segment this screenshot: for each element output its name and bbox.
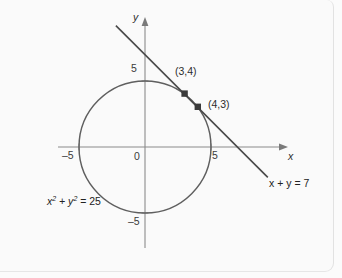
y-tick-label-neg5: –5 [128,216,140,227]
origin-label: 0 [134,151,140,162]
y-axis-arrowhead [142,17,149,26]
point-label-3-4: (3,4) [175,66,197,77]
circle-eq-mid: + y [56,195,73,207]
line-equation-label: x + y = 7 [269,178,309,189]
intersection-marker-4-3 [195,104,201,110]
circle-equation-label: x2 + y2 = 25 [47,196,101,207]
circle-eq-end: = 25 [77,195,101,207]
x-axis-label: x [288,151,293,162]
point-label-4-3: (4,3) [208,99,230,110]
y-axis-label: y [133,12,138,23]
intersection-marker-3-4 [181,90,187,96]
coordinate-plane [0,0,342,278]
x-axis [58,144,288,151]
x-tick-label-neg5: –5 [62,150,74,161]
x-tick-label-pos5: 5 [212,150,218,161]
x-axis-arrowhead [279,144,288,151]
y-tick-label-pos5: 5 [131,63,137,74]
figure-page: y x 0 –5 5 5 –5 (3,4) (4,3) x + y = 7 x2… [0,0,342,278]
